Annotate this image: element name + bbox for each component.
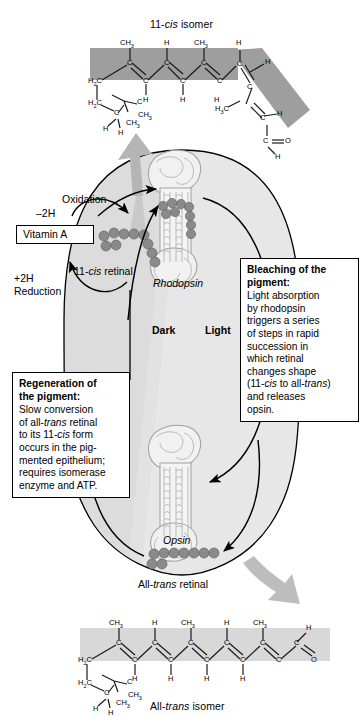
- atom-c: C: [116, 638, 121, 647]
- atom-h: H: [224, 618, 229, 627]
- atom-c: C: [168, 655, 173, 664]
- atom-c: C: [294, 638, 299, 647]
- bottom-title-suffix: isomer: [189, 700, 224, 712]
- atom-ch3: CH3: [253, 618, 267, 629]
- atom-c: C: [127, 677, 132, 686]
- bottom-structure-atom-labels: CH3 H CH3 H CH3 H C C C C C C H2C C C C …: [0, 600, 363, 713]
- atom-ch3: CH3: [116, 698, 130, 709]
- atom-h: H: [306, 623, 311, 632]
- atom-c: C: [204, 655, 209, 664]
- atom-ch3: CH3: [128, 690, 142, 701]
- atom-c: C: [240, 655, 245, 664]
- atom-c: C: [188, 638, 193, 647]
- atom-o: O: [311, 655, 317, 664]
- atom-ch3: CH3: [109, 618, 123, 629]
- atom-c: C: [276, 655, 281, 664]
- atom-h: H: [204, 674, 209, 683]
- bottom-structure-title: All-trans isomer: [150, 700, 310, 712]
- atom-c: C: [152, 638, 157, 647]
- atom-h: H: [108, 708, 113, 717]
- atom-c: C: [260, 638, 265, 647]
- atom-c: C: [224, 638, 229, 647]
- atom-c: C: [104, 688, 109, 697]
- atom-h2c: H2C: [78, 678, 92, 689]
- atom-h: H: [93, 704, 98, 713]
- bottom-title-italic: trans: [166, 700, 190, 712]
- atom-h: H: [152, 618, 157, 627]
- atom-h: H: [168, 674, 173, 683]
- atom-h2c: H2C: [78, 655, 92, 666]
- atom-h: H: [240, 674, 245, 683]
- atom-h: H: [132, 674, 137, 683]
- bottom-title-prefix: All-: [150, 700, 166, 712]
- atom-c: C: [132, 655, 137, 664]
- atom-ch3: CH3: [181, 618, 195, 629]
